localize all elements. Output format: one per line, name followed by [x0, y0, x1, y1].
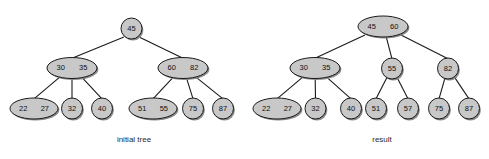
node-key: 75: [435, 104, 443, 113]
node-key: 60: [390, 22, 398, 31]
node-key: 32: [311, 104, 319, 113]
tree-node: 75: [429, 98, 451, 121]
node-key: 30: [57, 63, 65, 72]
node-key: 51: [372, 104, 380, 113]
node-key: 55: [160, 104, 168, 113]
node-ellipse: [358, 16, 408, 37]
tree-node: 82: [438, 58, 460, 81]
tree-node: 40: [92, 98, 114, 121]
node-key: 45: [127, 24, 135, 33]
node-key: 22: [19, 104, 27, 113]
node-key: 75: [189, 104, 197, 113]
tree-node: 3035: [47, 58, 98, 81]
tree-edge: [397, 77, 408, 99]
tree-edge: [153, 76, 174, 98]
node-key: 51: [138, 104, 146, 113]
node-group-result-tree: 4560303555822227324051577587: [253, 16, 481, 121]
tree-edge: [376, 77, 387, 99]
node-key: 40: [98, 104, 106, 113]
tree-node: 2227: [10, 98, 59, 121]
tree-node: 87: [459, 98, 481, 121]
tree-edge: [139, 37, 183, 58]
tree-node: 45: [121, 18, 143, 41]
node-key: 27: [41, 104, 49, 113]
tree-edge: [401, 35, 448, 59]
diagram-caption: initial tree: [117, 135, 152, 144]
tree-edge: [277, 76, 304, 98]
node-key: 60: [168, 63, 176, 72]
tree-node: 51: [366, 98, 388, 121]
tree-node: 4560: [358, 16, 409, 39]
node-key: 82: [444, 64, 452, 73]
node-key: 30: [300, 63, 308, 72]
diagram-caption: result: [372, 135, 392, 144]
tree-edge: [81, 76, 102, 98]
node-key: 32: [68, 104, 76, 113]
node-ellipse: [47, 58, 97, 79]
tree-node: 87: [213, 98, 235, 121]
node-ellipse: [10, 98, 58, 119]
tree-node: 40: [341, 98, 363, 121]
tree-node: 55: [382, 58, 404, 81]
node-ellipse: [253, 98, 301, 119]
tree-node: 75: [183, 98, 205, 121]
node-key: 27: [284, 104, 292, 113]
tree-node: 5155: [129, 98, 178, 121]
captions-layer: initial treeresult: [117, 135, 393, 144]
nodes-layer: 4530356082222732405155758745603035558222…: [10, 16, 481, 121]
node-ellipse: [158, 58, 208, 79]
node-ellipse: [129, 98, 177, 119]
tree-edge: [195, 76, 223, 98]
tree-diagram-figure: 4530356082222732405155758745603035558222…: [0, 0, 489, 159]
node-key: 87: [219, 104, 227, 113]
node-key: 40: [347, 104, 355, 113]
tree-node: 57: [398, 98, 420, 121]
tree-node: 32: [62, 98, 84, 121]
node-key: 55: [388, 64, 396, 73]
tree-edge: [454, 77, 469, 99]
node-key: 22: [262, 104, 270, 113]
tree-node: 3035: [290, 58, 341, 81]
tree-node: 6082: [158, 58, 209, 81]
tree-node: 2227: [253, 98, 302, 121]
tree-edge: [326, 76, 351, 98]
tree-edge: [72, 37, 124, 58]
node-key: 45: [368, 22, 376, 31]
tree-edge: [439, 77, 445, 99]
edges-layer: [34, 35, 469, 99]
node-ellipse: [290, 58, 340, 79]
tree-edge: [34, 76, 61, 98]
node-group-initial-tree: 45303560822227324051557587: [10, 18, 235, 121]
node-key: 57: [404, 104, 412, 113]
tree-edge: [315, 35, 365, 58]
tree-node: 32: [305, 98, 327, 121]
node-key: 35: [322, 63, 330, 72]
node-key: 87: [465, 104, 473, 113]
node-key: 82: [190, 63, 198, 72]
node-key: 35: [79, 63, 87, 72]
